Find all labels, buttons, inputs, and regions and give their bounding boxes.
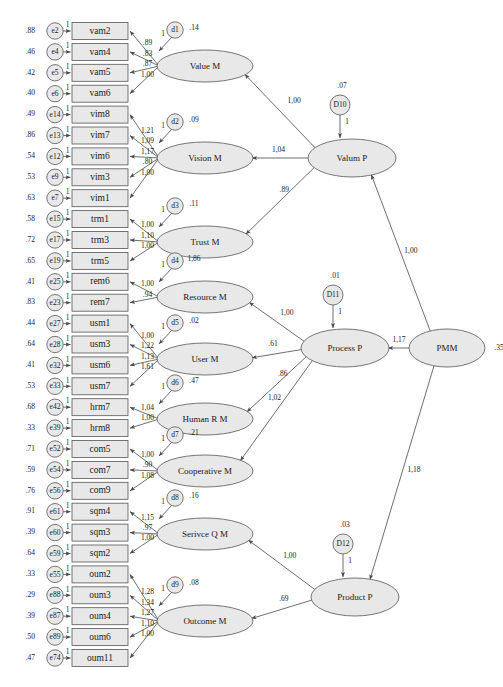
disturbance-label-d2: d2: [171, 117, 179, 126]
indicator-variance-vim6: .54: [26, 151, 36, 160]
structural-path-process-to-cooperative: [240, 360, 312, 460]
structural-path-pmm-to-valum: [371, 175, 430, 332]
indicator-variance-vam2: .88: [26, 26, 36, 35]
indicator-variance-sqm2: .64: [26, 548, 36, 557]
disturbance-to-serviceq: [159, 505, 172, 519]
disturbance-fix-d1: 1: [161, 29, 165, 38]
disturbance-to-vision: [159, 129, 172, 143]
loading-coef-vam5: .87: [143, 59, 153, 68]
loading-coef-vim7: 1,09: [141, 136, 154, 145]
loading-coef-sqm3: .97: [143, 523, 153, 532]
disturbance-to-outcome: [159, 592, 172, 606]
structural-label-valum: Valum P: [337, 153, 368, 163]
indicator-label-sqm2: sqm2: [90, 548, 111, 558]
loading-coef-oum4: 1,27: [141, 608, 154, 617]
factor-label-cooperative: Cooperative M: [178, 466, 232, 476]
fix-one-e23: 1: [66, 292, 70, 301]
fix-one-e87: 1: [66, 605, 70, 614]
indicator-variance-sqm4: .91: [26, 506, 36, 515]
structural-label-process: Process P: [328, 343, 363, 353]
disturbance-to-trust: [159, 213, 172, 227]
structural-coef-product-outcome: .69: [279, 594, 289, 603]
fix-one-e9: 1: [66, 167, 70, 176]
disturbance-label-d1: d1: [171, 25, 179, 34]
disturbance-fix-d9: 1: [161, 584, 165, 593]
error-label-e12: e12: [50, 152, 61, 161]
indicator-label-com9: com9: [89, 485, 110, 495]
indicator-label-com7: com7: [89, 465, 110, 475]
loading-coef-hrm7: 1,04: [141, 403, 154, 412]
loading-coef-usm7: 1,61: [141, 362, 154, 371]
structural-label-product: Product P: [337, 592, 372, 602]
loading-coef-trm3: 1,10: [141, 231, 154, 240]
error-label-e87: e87: [50, 611, 61, 620]
fix-one-e15: 1: [66, 208, 70, 217]
fix-one-e61: 1: [66, 501, 70, 510]
structural-path-product-to-serviceq: [248, 540, 315, 590]
disturbance-variance-d8: .16: [189, 491, 199, 500]
structural-coef-process-user: .61: [268, 339, 278, 348]
indicator-variance-rem7: .83: [26, 297, 36, 306]
indicator-label-sqm4: sqm4: [90, 506, 111, 516]
loading-coef-oum6: 1,10: [141, 619, 154, 628]
error-label-e54: e54: [50, 465, 61, 474]
error-label-e6: e6: [51, 89, 58, 98]
disturbance-label-D11: D11: [327, 290, 340, 299]
indicator-variance-sqm3: .39: [26, 527, 36, 536]
indicator-label-usm3: usm3: [90, 339, 111, 349]
fix-one-e60: 1: [66, 522, 70, 531]
loading-coef-oum2: 1,28: [141, 587, 154, 596]
fix-one-e19: 1: [66, 250, 70, 259]
disturbance-variance-D10: .07: [337, 81, 347, 90]
fix-one-e89: 1: [66, 626, 70, 635]
indicator-label-oum2: oum2: [89, 569, 111, 579]
error-label-e7: e7: [51, 193, 58, 202]
indicator-variance-vam5: .42: [26, 68, 36, 77]
fix-one-e56: 1: [66, 480, 70, 489]
indicator-variance-usm6: .41: [26, 360, 36, 369]
indicator-label-vim8: vim8: [90, 109, 110, 119]
indicator-label-usm6: usm6: [90, 360, 111, 370]
indicator-label-hrm7: hrm7: [90, 402, 110, 412]
fix-one-e27: 1: [66, 313, 70, 322]
loading-coef-vim3: .80: [143, 157, 153, 166]
indicator-label-trm5: trm5: [91, 256, 109, 266]
indicator-label-vam4: vam4: [89, 47, 110, 57]
structural-coef-pmm-valum: 1,00: [404, 246, 417, 255]
disturbance-variance-D12: .03: [340, 520, 350, 529]
disturbance-variance-D11: .01: [330, 271, 340, 280]
fix-one-e12: 1: [66, 146, 70, 155]
indicator-variance-com7: .59: [26, 465, 36, 474]
fix-one-e13: 1: [66, 125, 70, 134]
error-label-e27: e27: [50, 319, 61, 328]
disturbance-label-d4: d4: [171, 256, 179, 265]
indicator-variance-vim1: .63: [26, 193, 36, 202]
loading-coef-com5: 1,00: [141, 450, 154, 459]
factor-label-value: Value M: [190, 61, 221, 71]
error-label-e39: e39: [50, 423, 61, 432]
structural-coef-pmm-product: 1,18: [407, 465, 420, 474]
loading-coef-vam4: .83: [143, 49, 153, 58]
error-label-e61: e61: [50, 507, 61, 516]
disturbance-fix-d8: 1: [161, 497, 165, 506]
disturbance-variance-d5: .02: [189, 316, 199, 325]
disturbance-label-d6: d6: [171, 378, 179, 387]
error-label-e5: e5: [51, 68, 58, 77]
structural-coef-valum-vision: 1,04: [272, 145, 285, 154]
error-label-e9: e9: [51, 172, 58, 181]
error-label-e15: e15: [50, 214, 61, 223]
fix-one-e33: 1: [66, 376, 70, 385]
disturbance-variance-d3: .11: [189, 199, 198, 208]
fix-one-e39: 1: [66, 417, 70, 426]
factor-label-serviceq: Serivce Q M: [182, 529, 228, 539]
structural-coef-pmm-process: 1,17: [392, 335, 405, 344]
fix-one-e5: 1: [66, 62, 70, 71]
disturbance-fix-D11: 1: [338, 307, 342, 316]
error-label-e19: e19: [50, 256, 61, 265]
error-label-e59: e59: [50, 549, 61, 558]
indicator-variance-oum2: .33: [26, 569, 36, 578]
indicator-label-hrm8: hrm8: [90, 423, 110, 433]
fix-one-e74: 1: [66, 647, 70, 656]
loading-coef-usm1: 1,00: [141, 331, 154, 340]
structural-path-process-to-humanr: [247, 356, 307, 411]
